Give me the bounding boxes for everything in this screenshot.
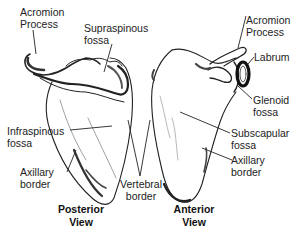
label-glenoid-fossa: Glenoid fossa [253, 94, 289, 118]
label-line: Process [20, 18, 64, 30]
anterior-view-title: Anterior View [168, 203, 220, 229]
label-line: Labrum [254, 51, 290, 63]
title-line: Posterior [50, 203, 112, 216]
label-line: border [120, 190, 162, 202]
label-line: fossa [253, 106, 289, 118]
label-anterior-acromion-process: Acromion Process [246, 14, 290, 38]
label-line: fossa [84, 34, 148, 46]
leader-post-axillary [67, 150, 76, 172]
leader-infraspinous [70, 126, 112, 130]
label-vertebral-border: Vertebral border [120, 178, 162, 202]
label-infraspinous-fossa: Infraspinous fossa [7, 125, 64, 149]
label-line: Acromion [246, 14, 290, 26]
posterior-view-title: Posterior View [50, 203, 112, 229]
label-line: Axillary [231, 154, 265, 166]
label-posterior-axillary-border: Axillary border [20, 166, 54, 190]
anterior-outline [152, 50, 236, 202]
label-line: fossa [7, 137, 64, 149]
anterior-scapula [152, 47, 249, 202]
label-line: border [20, 178, 54, 190]
label-line: Subscapular [231, 127, 289, 139]
posterior-acromion [25, 54, 100, 75]
title-line: Anterior [168, 203, 220, 216]
label-subscapular-fossa: Subscapular fossa [231, 127, 289, 151]
label-supraspinous-fossa: Supraspinous fossa [84, 22, 148, 46]
label-line: Infraspinous [7, 125, 64, 137]
label-line: Acromion [20, 6, 64, 18]
leader-ant-acromion [238, 16, 246, 48]
label-line: Vertebral [120, 178, 162, 190]
leader-glenoid [238, 86, 252, 99]
title-line: View [50, 216, 112, 229]
label-line: Supraspinous [84, 22, 148, 34]
label-labrum: Labrum [254, 51, 290, 63]
leader-vertebral [128, 120, 150, 176]
label-anterior-axillary-border: Axillary border [231, 154, 265, 178]
label-line: Glenoid [253, 94, 289, 106]
label-line: Axillary [20, 166, 54, 178]
label-line: border [231, 166, 265, 178]
label-line: fossa [231, 139, 289, 151]
scapula-diagram: Acromion Process Supraspinous fossa Infr… [0, 0, 296, 231]
title-line: View [168, 216, 220, 229]
label-posterior-acromion-process: Acromion Process [20, 6, 64, 30]
leader-post-acromion [33, 30, 36, 54]
label-line: Process [246, 26, 290, 38]
